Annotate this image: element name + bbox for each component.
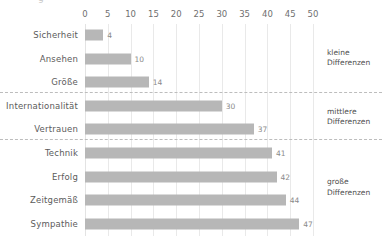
group-annotation-line2: Differenzen: [327, 188, 370, 199]
bar-value-label: 47: [303, 219, 313, 228]
bar: [85, 148, 272, 159]
group-annotation: großeDifferenzen: [327, 177, 370, 199]
x-tick-label: 40: [262, 9, 273, 19]
bar: [85, 30, 103, 41]
bar-value-label: 30: [226, 101, 236, 110]
group-annotation: kleineDifferenzen: [327, 48, 370, 70]
bar: [85, 77, 149, 88]
group-separator: [0, 139, 382, 140]
bar-row: Sympathie47: [85, 213, 313, 235]
x-tick-label: 10: [125, 9, 136, 19]
x-tick-label: 15: [148, 9, 159, 19]
x-tick-label: 20: [171, 9, 182, 19]
bar-value-label: 41: [276, 149, 286, 158]
group-annotation-line1: kleine: [327, 48, 370, 59]
category-label: Technik: [45, 148, 78, 158]
bar: [85, 195, 286, 206]
bar-row: Vertrauen37: [85, 118, 313, 140]
x-tick-label: 35: [239, 9, 250, 19]
group-annotation: mittlereDifferenzen: [327, 107, 370, 129]
clipped-title-text: g: [38, 0, 44, 3]
bar: [85, 218, 299, 229]
bar: [85, 171, 277, 182]
bar: [85, 53, 131, 64]
category-label: Zeitgemäß: [30, 195, 78, 205]
group-annotation-line2: Differenzen: [327, 117, 370, 128]
x-tick-label: 25: [194, 9, 205, 19]
x-tick-label: 5: [105, 9, 110, 19]
group-annotation-line1: große: [327, 177, 370, 188]
bar-value-label: 42: [281, 172, 291, 181]
x-tick-label: 50: [308, 9, 319, 19]
group-separator: [0, 92, 382, 93]
bar-value-label: 10: [135, 54, 145, 63]
category-label: Größe: [51, 77, 78, 87]
group-annotation-line1: mittlere: [327, 107, 370, 118]
bar-row: Größe14: [85, 71, 313, 93]
x-tick-label: 30: [216, 9, 227, 19]
x-tick-label: 45: [285, 9, 296, 19]
bar-row: Sicherheit4: [85, 24, 313, 46]
bar-row: Zeitgemäß44: [85, 189, 313, 211]
bar-value-label: 4: [107, 31, 112, 40]
bar: [85, 100, 222, 111]
category-label: Erfolg: [52, 172, 78, 182]
plot-area: 05101520253035404550Sicherheit4Ansehen10…: [85, 24, 313, 236]
bar-value-label: 44: [290, 196, 300, 205]
x-tick-label: 0: [82, 9, 87, 19]
bar-value-label: 14: [153, 78, 163, 87]
gridline-50: [313, 24, 314, 236]
bar-row: Technik41: [85, 142, 313, 164]
category-label: Internationalität: [6, 101, 78, 111]
category-label: Sympathie: [31, 219, 78, 229]
group-annotation-line2: Differenzen: [327, 58, 370, 69]
bar-row: Internationalität30: [85, 95, 313, 117]
bar-row: Erfolg42: [85, 166, 313, 188]
bar-row: Ansehen10: [85, 48, 313, 70]
category-label: Ansehen: [40, 54, 78, 64]
bar: [85, 124, 254, 135]
category-label: Vertrauen: [34, 124, 78, 134]
category-label: Sicherheit: [33, 30, 78, 40]
bar-chart: g 05101520253035404550Sicherheit4Ansehen…: [0, 0, 382, 244]
bar-value-label: 37: [258, 125, 268, 134]
